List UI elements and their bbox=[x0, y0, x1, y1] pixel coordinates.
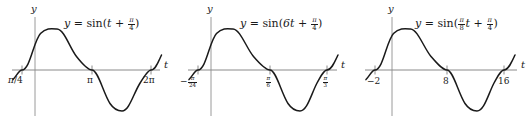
equation-fraction-denominator: 4 bbox=[311, 24, 317, 32]
tick-label-sign: − bbox=[180, 76, 188, 86]
tick-label-8: 8 bbox=[443, 77, 449, 86]
tick-label-pi: π bbox=[87, 76, 93, 85]
equation-function: sin( bbox=[262, 17, 283, 30]
equation-fraction-denominator: 4 bbox=[128, 24, 134, 32]
equation-fraction-numerator: π bbox=[128, 17, 134, 24]
tick-label-fraction: π6 bbox=[266, 76, 272, 89]
equation-function: sin( bbox=[86, 17, 107, 30]
panel-sin-6t-plus-pi-over-4: y t y = sin(6t + π4) −π24 π6 π3 bbox=[175, 0, 353, 121]
x-axis-label: t bbox=[164, 60, 168, 70]
y-axis-label: y bbox=[31, 4, 37, 14]
tick-label-fraction: π24 bbox=[188, 76, 197, 89]
panel-sin-pi-over-8-t-plus-pi-over-4: y t y = sin(π8t + π4) −2 8 16 bbox=[353, 0, 531, 121]
equation-label: y = sin(6t + π4) bbox=[240, 17, 322, 32]
equation-label: y = sin(t + π4) bbox=[64, 17, 139, 32]
y-axis-label: y bbox=[388, 4, 394, 14]
equation-close-paren: ) bbox=[318, 17, 322, 30]
tick-label-denominator: 6 bbox=[266, 82, 272, 89]
equation-phase-numerator: π bbox=[487, 17, 493, 24]
equation-phase-fraction: π4 bbox=[487, 17, 493, 32]
equation-coefficient-numerator: π bbox=[458, 17, 464, 24]
equation-fraction: π4 bbox=[128, 17, 134, 32]
tick-label-fraction: π3 bbox=[323, 76, 329, 89]
equation-coefficient-denominator: 8 bbox=[458, 24, 464, 32]
equation-equals: = bbox=[425, 17, 434, 30]
sine-graphs-figure: y t y = sin(t + π4) π/4 π 2π y t y = sin… bbox=[0, 0, 531, 121]
equation-function: sin( bbox=[437, 17, 458, 30]
tick-label-pi-over-6: π6 bbox=[265, 76, 272, 89]
equation-plus: + bbox=[473, 17, 482, 30]
equation-label: y = sin(π8t + π4) bbox=[415, 17, 498, 32]
tick-label-pi-over-4: π/4 bbox=[8, 76, 23, 85]
tick-label-denominator: 3 bbox=[323, 82, 329, 89]
equation-coefficient-fraction: π8 bbox=[458, 17, 464, 32]
equation-close-paren: ) bbox=[494, 17, 498, 30]
tick-label-16: 16 bbox=[498, 77, 509, 86]
tick-label-pi-over-3: π3 bbox=[322, 76, 329, 89]
equation-equals: = bbox=[250, 17, 259, 30]
equation-equals: = bbox=[74, 17, 83, 30]
x-axis-label: t bbox=[521, 60, 525, 70]
equation-argument: 6t bbox=[283, 17, 294, 30]
x-axis-label: t bbox=[341, 60, 345, 70]
equation-fraction: π4 bbox=[311, 17, 317, 32]
y-axis-label: y bbox=[207, 4, 213, 14]
equation-close-paren: ) bbox=[135, 17, 139, 30]
tick-label-neg-pi-over-24: −π24 bbox=[180, 76, 198, 89]
equation-plus: + bbox=[115, 17, 124, 30]
tick-label-neg-2: −2 bbox=[367, 77, 380, 86]
tick-label-denominator: 24 bbox=[188, 82, 197, 89]
tick-label-2pi: 2π bbox=[143, 76, 155, 85]
panel-sin-t-plus-pi-over-4: y t y = sin(t + π4) π/4 π 2π bbox=[0, 0, 175, 121]
tick-label-denominator: 4 bbox=[17, 75, 23, 85]
equation-phase-denominator: 4 bbox=[487, 24, 493, 32]
equation-plus: + bbox=[298, 17, 307, 30]
equation-fraction-numerator: π bbox=[311, 17, 317, 24]
